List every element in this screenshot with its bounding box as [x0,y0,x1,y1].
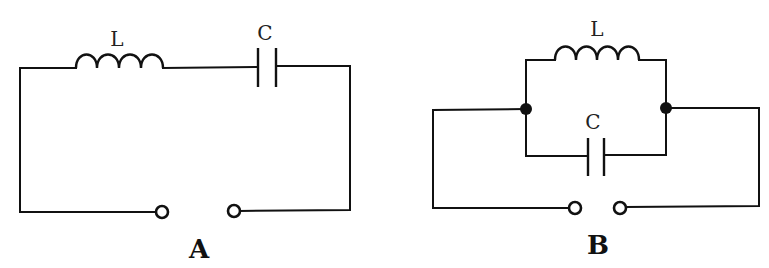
circuit-b-wire-outer-left [433,109,569,208]
circuit-b-capacitor-label: C [585,110,600,134]
circuit-a-terminal-right [228,205,240,217]
circuit-b-inductor-label: L [590,17,603,41]
circuit-b-wire-inductor-left [526,60,555,109]
circuit-b-terminal-left [569,202,581,214]
circuit-a-inductor-icon [76,55,163,69]
circuit-a-terminal-left [156,206,168,218]
circuit-a-wire-left [20,68,156,212]
circuit-a-label: A [188,234,210,264]
circuit-b: L C B [433,17,759,260]
circuit-a-wire-right [240,66,350,211]
circuit-b-wire-capacitor-left [526,109,588,156]
circuit-a-capacitor-label: C [257,21,272,45]
circuit-b-terminal-right [614,202,626,214]
circuit-diagram: L C A L C B [0,0,769,268]
circuit-b-junction-left [520,103,532,115]
circuit-b-label: B [587,230,609,260]
circuit-b-wire-inductor-right [639,60,666,108]
circuit-a: L C A [20,21,350,264]
circuit-b-inductor-icon [555,47,639,61]
circuit-b-junction-right [660,102,672,114]
circuit-a-inductor-label: L [110,27,123,51]
circuit-b-wire-outer-right [626,108,759,207]
circuit-b-wire-capacitor-right [604,108,666,155]
circuit-a-wire-top [163,67,258,68]
